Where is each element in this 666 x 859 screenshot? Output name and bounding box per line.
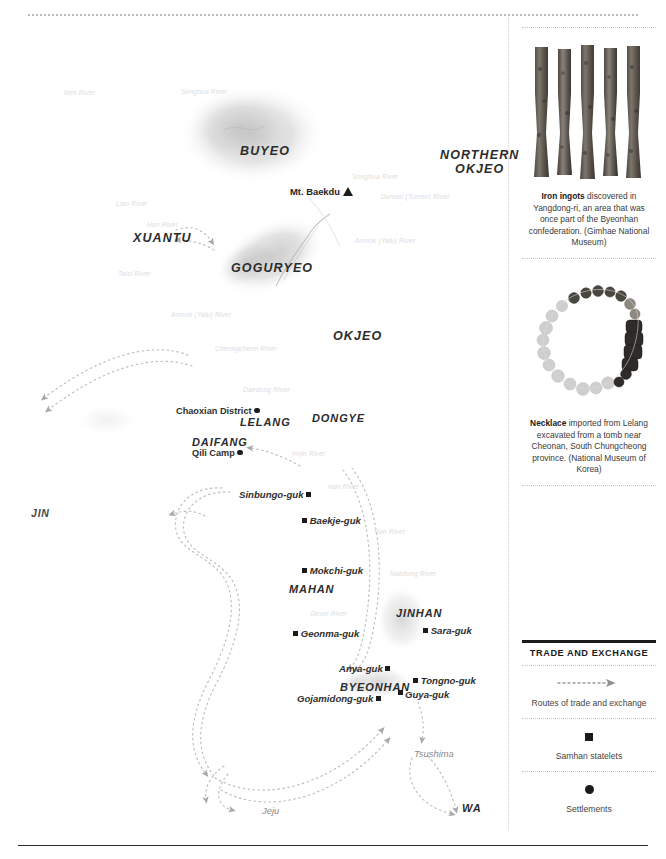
- river-label-liao: Liao River: [116, 200, 148, 207]
- statelet-guya-guk-marker: [398, 682, 403, 700]
- map-legend: TRADE AND EXCHANGE Routes of trade and e…: [522, 640, 656, 822]
- polity-label-northern-okjeo: NORTHERNOKJEO: [440, 148, 519, 176]
- statelet-label: Sinbungo-guk: [239, 489, 303, 500]
- polity-label-dongye: DONGYE: [312, 412, 365, 424]
- square-marker-icon: [585, 733, 593, 741]
- legend-item-routes: Routes of trade and exchange: [522, 668, 656, 716]
- iron-ingots-caption: Iron ingots discovered in Yangdong-ri, a…: [522, 191, 656, 249]
- settlement-chaoxian-district: Chaoxian District: [176, 406, 260, 416]
- necklace-caption-lead: Necklace: [530, 418, 566, 428]
- statelet-sara-guk: Sara-guk: [423, 625, 472, 636]
- island-label-tsushima: Tsushima: [414, 748, 454, 759]
- page-bottom-rule: [18, 845, 648, 846]
- legend-item-statelets: Samhan statelets: [522, 721, 656, 769]
- trade-route-lines: [44, 228, 456, 814]
- polity-label-wa: WA: [462, 802, 482, 814]
- statelet-baekje-guk: Baekje-guk: [302, 515, 361, 526]
- statelet-label: Gojamidong-guk: [297, 693, 373, 704]
- dotted-arrow-icon: [552, 678, 626, 688]
- statelet-label: Geonma-guk: [301, 628, 360, 639]
- iron-ingots-caption-lead: Iron ingots: [542, 191, 585, 201]
- historical-map[interactable]: BUYEO NORTHERNOKJEO XUANTU GOGURYEO OKJE…: [0, 18, 508, 830]
- statelet-tongno-guk: Tongno-guk: [413, 675, 476, 686]
- statelet-label: Tongno-guk: [421, 675, 476, 686]
- statelet-label: Mokchi-guk: [310, 565, 363, 576]
- statelet-anya-guk: Anya-guk: [339, 663, 390, 674]
- legend-title: TRADE AND EXCHANGE: [522, 648, 656, 665]
- statelet-square-icon: [385, 666, 390, 671]
- river-label-geum: Geum River: [310, 610, 347, 617]
- panel-divider: [508, 18, 509, 830]
- statelet-square-icon: [398, 690, 403, 695]
- dot-marker-icon: [585, 785, 594, 794]
- river-label-duman-tumen: Duman (Tumen) River: [381, 193, 450, 200]
- river-label-daedong: Daedong River: [243, 386, 290, 393]
- settlement-dot-icon: [254, 408, 260, 414]
- statelet-square-icon: [306, 492, 311, 497]
- necklace-caption: Necklace imported from Lelang excavated …: [522, 418, 656, 476]
- statelet-label: Sara-guk: [431, 625, 472, 636]
- legend-rule-3: [522, 771, 656, 772]
- sidebar-rule-top: [522, 27, 656, 28]
- river-label-nakdong: Nakdong River: [390, 570, 436, 577]
- statelet-label: Baekje-guk: [310, 515, 361, 526]
- river-label-imjin: Imjin River: [292, 450, 325, 457]
- iron-ingots-photo: [522, 37, 656, 191]
- river-label-amnok-yalu-ne: Amnok (Yalu) River: [355, 237, 415, 244]
- legend-rule-2: [522, 718, 656, 719]
- river-label-nen: Nen River: [64, 89, 95, 96]
- statelet-square-icon: [376, 696, 381, 701]
- statelet-label: Anya-guk: [339, 663, 383, 674]
- statelet-label: Guya-guk: [405, 689, 449, 700]
- legend-label-settlements: Settlements: [522, 803, 656, 815]
- polity-label-mahan: MAHAN: [289, 583, 334, 595]
- polity-label-daifang: DAIFANG: [192, 436, 248, 448]
- river-label-songhua-north: Songhua River: [181, 88, 227, 95]
- statelet-mokchi-guk: Mokchi-guk: [302, 565, 363, 576]
- iron-ingots-graphic: [529, 43, 649, 185]
- statelet-square-icon: [423, 628, 428, 633]
- legend-top-bar: [522, 640, 656, 643]
- statelet-gojamidong-guk: Gojamidong-guk: [297, 693, 381, 704]
- polity-label-jinhan: JINHAN: [396, 607, 442, 619]
- settlement-dot-icon: [237, 450, 243, 456]
- settlement-label: Qili Camp: [192, 448, 235, 458]
- river-label-hun: Hun River: [147, 221, 178, 228]
- statelet-square-icon: [302, 568, 307, 573]
- sidebar-rule-mid-2: [522, 485, 656, 486]
- legend-label-routes: Routes of trade and exchange: [522, 697, 656, 709]
- river-label-taizi: Taizi River: [118, 270, 151, 277]
- necklace-photo: [522, 268, 656, 418]
- necklace-graphic: [522, 268, 656, 416]
- settlement-label: Chaoxian District: [176, 406, 252, 416]
- polity-label-goguryeo: GOGURYEO: [231, 261, 313, 275]
- river-label-amnok-yalu: Amnok (Yalu) River: [171, 311, 231, 318]
- statelet-square-icon: [302, 518, 307, 523]
- mt-baekdu-text: Mt. Baekdu: [290, 186, 340, 197]
- statelet-square-icon: [413, 678, 418, 683]
- legend-item-settlements: Settlements: [522, 774, 656, 822]
- statelet-guya-guk: Guya-guk: [405, 689, 449, 700]
- legend-label-statelets: Samhan statelets: [522, 750, 656, 762]
- river-label-songhua: Songhua River: [352, 173, 398, 180]
- sidebar: Iron ingots discovered in Yangdong-ri, a…: [522, 18, 656, 830]
- page-top-rule: [28, 14, 638, 16]
- statelet-geonma-guk: Geonma-guk: [293, 628, 359, 639]
- statelet-sinbungo-guk: Sinbungo-guk: [239, 489, 311, 500]
- river-label-cheongcheon: Cheongcheon River: [215, 345, 277, 352]
- river-label-han-north: Han River: [328, 483, 359, 490]
- legend-rule-1: [522, 665, 656, 666]
- statelet-square-icon: [293, 631, 298, 636]
- mountain-label-mt-baekdu: Mt. Baekdu: [290, 186, 353, 197]
- polity-label-jin: JIN: [31, 507, 50, 519]
- polity-label-lelang: LELANG: [240, 416, 291, 428]
- river-label-han: Han River: [374, 528, 405, 535]
- sidebar-rule-mid-1: [522, 258, 656, 259]
- polity-label-xuantu: XUANTU: [133, 231, 192, 245]
- settlement-qili-camp: Qili Camp: [192, 448, 243, 458]
- mountain-triangle-icon: [343, 187, 353, 196]
- polity-label-buyeo: BUYEO: [240, 144, 290, 158]
- polity-label-okjeo: OKJEO: [333, 329, 382, 343]
- island-label-jeju: Jeju: [262, 805, 279, 816]
